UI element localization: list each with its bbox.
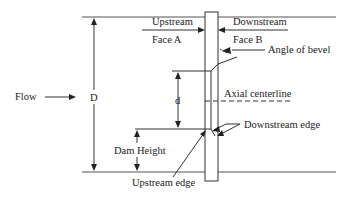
bore-arrow-up-icon [175,72,181,79]
bore-arrow-down-icon [175,121,181,128]
angle-of-bevel-label: Angle of bevel [268,44,330,55]
face-b-arrow-icon [218,27,225,33]
flow-arrow-icon [69,94,76,100]
orifice-plate-diagram: D Flow Upstream Face A Downstream Face B… [0,0,356,200]
upstream-edge-label: Upstream edge [132,177,196,188]
downstream-edge-label: Downstream edge [244,119,320,130]
bore-diameter-label: d [175,95,181,106]
face-a-arrow-icon [198,27,205,33]
diagram-canvas: D Flow Upstream Face A Downstream Face B… [0,0,356,200]
face-b-label: Face B [233,34,262,45]
dam-arrow-up-icon [134,130,140,137]
flow-label: Flow [15,91,37,102]
pipe-diameter-label: D [90,92,98,103]
upstream-label: Upstream [152,16,193,27]
arrow-up-icon [91,18,97,25]
arrow-down-icon [91,164,97,171]
axial-centerline-label: Axial centerline [224,88,292,99]
dam-arrow-down-icon [134,164,140,171]
dam-height-label: Dam Height [114,145,166,156]
upstream-edge-pointer [173,133,204,177]
bevel-extension [218,57,237,64]
face-a-label: Face A [152,34,182,45]
downstream-label: Downstream [233,16,287,27]
